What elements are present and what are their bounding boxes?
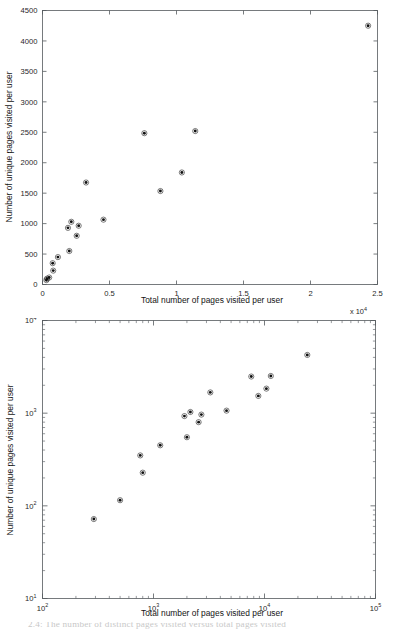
loglog-x-axis-label: Total number of pages visited per user (141, 608, 283, 618)
loglog-data-points (91, 352, 310, 521)
data-point-marker (102, 218, 105, 221)
data-point-marker (92, 518, 95, 521)
data-point-marker (159, 444, 162, 447)
data-point-marker (119, 499, 122, 502)
data-point-marker (139, 454, 142, 457)
x-tick-label: 102 (37, 602, 48, 612)
y-tick-label: 103 (25, 407, 36, 417)
data-point-marker (265, 387, 268, 390)
y-tick-label: 102 (25, 500, 36, 510)
x-tick-label: 105 (370, 602, 381, 612)
linear-x-multiplier: x 104 (350, 306, 367, 316)
y-tick-label: 104 (25, 318, 36, 325)
data-point-marker (180, 171, 183, 174)
data-point-marker (75, 234, 78, 237)
data-point-marker (48, 276, 51, 279)
y-tick-label: 3000 (21, 98, 38, 107)
data-point-marker (194, 130, 197, 133)
x-tick-label: 2 (308, 289, 312, 298)
data-point-marker (77, 224, 80, 227)
loglog-scatter-panel: 102103104105101102103104 Total number of… (0, 318, 396, 618)
data-point-marker (70, 220, 73, 223)
loglog-tick-labels: 102103104105101102103104 (25, 318, 381, 613)
linear-tick-labels: 05001000150020002500300035004000450000.5… (21, 6, 383, 297)
data-point-marker (269, 375, 272, 378)
loglog-scatter-plot: 102103104105101102103104 Total number of… (0, 318, 396, 618)
x-tick-label: 2.5 (372, 289, 383, 298)
data-point-marker (67, 226, 70, 229)
data-point-marker (143, 132, 146, 135)
data-point-marker (141, 471, 144, 474)
x-tick-label: 0.5 (104, 289, 115, 298)
data-point-marker (367, 24, 370, 27)
data-point-marker (52, 269, 55, 272)
linear-scatter-panel: 05001000150020002500300035004000450000.5… (0, 0, 396, 318)
data-point-marker (183, 415, 186, 418)
partial-caption-strip: 2.4: The number of distinct pages visite… (0, 622, 396, 635)
data-point-marker (189, 411, 192, 414)
y-tick-label: 1000 (21, 219, 38, 228)
multiplier-base: x 10 (350, 307, 364, 316)
data-point-marker (306, 353, 309, 356)
data-point-marker (209, 391, 212, 394)
loglog-y-axis-label: Number of unique pages visited per user (5, 384, 15, 535)
data-point-marker (257, 394, 260, 397)
data-point-marker (56, 256, 59, 259)
y-tick-label: 2000 (21, 158, 38, 167)
data-point-marker (159, 190, 162, 193)
linear-x-axis-label: Total number of pages visited per user (141, 295, 283, 305)
data-point-marker (200, 413, 203, 416)
multiplier-exponent: 4 (364, 306, 367, 312)
loglog-plot-box (43, 321, 376, 599)
linear-plot-box (43, 11, 378, 285)
y-tick-label: 4000 (21, 37, 38, 46)
scatter-figure: 05001000150020002500300035004000450000.5… (0, 0, 396, 635)
data-point-marker (197, 421, 200, 424)
y-tick-label: 0 (33, 280, 37, 289)
y-tick-label: 4500 (21, 6, 38, 15)
y-tick-label: 2500 (21, 128, 38, 137)
data-point-marker (225, 409, 228, 412)
partial-caption-text: 2.4: The number of distinct pages visite… (28, 622, 380, 629)
linear-axis-ticks (43, 11, 378, 285)
data-point-marker (185, 436, 188, 439)
x-tick-label: 0 (40, 289, 44, 298)
data-point-marker (68, 250, 71, 253)
loglog-axis-ticks (43, 321, 376, 599)
y-tick-label: 101 (25, 593, 36, 603)
data-point-marker (51, 262, 54, 265)
linear-scatter-plot: 05001000150020002500300035004000450000.5… (0, 0, 396, 318)
y-tick-label: 500 (25, 250, 38, 259)
y-tick-label: 1500 (21, 189, 38, 198)
y-tick-label: 3500 (21, 67, 38, 76)
data-point-marker (85, 181, 88, 184)
linear-data-points (44, 23, 371, 283)
linear-y-axis-label: Number of unique pages visited per user (4, 71, 14, 222)
data-point-marker (250, 375, 253, 378)
